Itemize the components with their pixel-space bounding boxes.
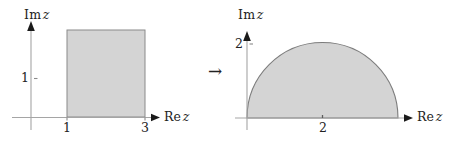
half-disk-region bbox=[247, 43, 398, 118]
real-axis-arrowhead bbox=[404, 114, 413, 121]
image-x-tick-label-2: 2 bbox=[319, 122, 327, 135]
real-axis-arrowhead bbox=[151, 114, 160, 121]
image-real-axis-label: Rez bbox=[417, 111, 443, 124]
complex-plane-mapping-figure: Imz Rez 1 1 3 → I bbox=[0, 0, 464, 142]
mapping-arrow-icon: → bbox=[200, 60, 230, 82]
domain-panel: Imz Rez 1 1 3 bbox=[0, 0, 232, 142]
domain-y-tick-label-1: 1 bbox=[21, 72, 29, 85]
domain-imaginary-axis-label: Imz bbox=[24, 9, 50, 22]
domain-re-italic-z: z bbox=[181, 109, 189, 124]
domain-x-tick-label-1: 1 bbox=[63, 122, 71, 135]
image-panel: Imz Rez 2 2 bbox=[232, 0, 464, 142]
image-re-roman: Re bbox=[417, 109, 434, 124]
domain-real-axis-label: Rez bbox=[164, 111, 190, 124]
image-im-italic-z: z bbox=[255, 7, 263, 22]
image-y-tick-label-2: 2 bbox=[235, 38, 243, 51]
imaginary-axis-arrowhead bbox=[243, 31, 251, 41]
rectangle-region bbox=[67, 30, 145, 117]
domain-im-italic-z: z bbox=[41, 7, 49, 22]
image-re-italic-z: z bbox=[434, 109, 442, 124]
domain-x-tick-label-3: 3 bbox=[141, 122, 149, 135]
image-im-roman: Im bbox=[238, 7, 255, 22]
imaginary-axis-arrowhead bbox=[27, 21, 35, 31]
domain-im-roman: Im bbox=[24, 7, 41, 22]
image-imaginary-axis-label: Imz bbox=[238, 9, 264, 22]
domain-re-roman: Re bbox=[164, 109, 181, 124]
